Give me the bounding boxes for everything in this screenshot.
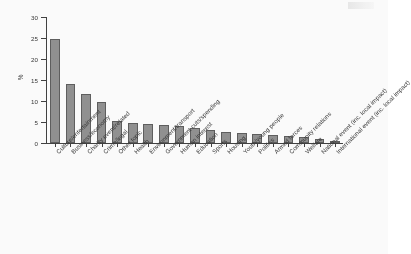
y-tick-mark	[41, 59, 46, 60]
y-tick-label: 5	[34, 119, 38, 126]
x-tick-mark	[304, 144, 305, 147]
y-tick-label: 30	[31, 14, 38, 21]
y-tick-mark	[41, 38, 46, 39]
y-tick-mark	[41, 122, 46, 123]
scan-artifact	[348, 2, 374, 9]
x-tick-mark	[86, 144, 87, 147]
x-tick-mark	[55, 144, 56, 147]
y-tick-label: 20	[31, 56, 38, 63]
y-tick-mark	[41, 80, 46, 81]
x-tick-mark	[226, 144, 227, 147]
x-tick-mark	[164, 144, 165, 147]
x-tick-mark	[117, 144, 118, 147]
x-tick-mark	[102, 144, 103, 147]
x-tick-mark	[242, 144, 243, 147]
x-tick-mark	[273, 144, 274, 147]
y-tick-mark	[41, 143, 46, 144]
x-tick-label: International event (inc. local impact)	[335, 78, 411, 155]
x-tick-mark	[320, 144, 321, 147]
y-axis-title: %	[17, 75, 24, 81]
bar	[50, 39, 60, 143]
x-tick-mark	[195, 144, 196, 147]
y-tick-mark	[41, 17, 46, 18]
x-tick-mark	[133, 144, 134, 147]
x-tick-mark	[211, 144, 212, 147]
y-tick-label: 15	[31, 77, 38, 84]
y-tick-mark	[41, 101, 46, 102]
y-tick-label: 10	[31, 98, 38, 105]
y-tick-label: 25	[31, 35, 38, 42]
y-tick-label: 0	[34, 140, 38, 147]
